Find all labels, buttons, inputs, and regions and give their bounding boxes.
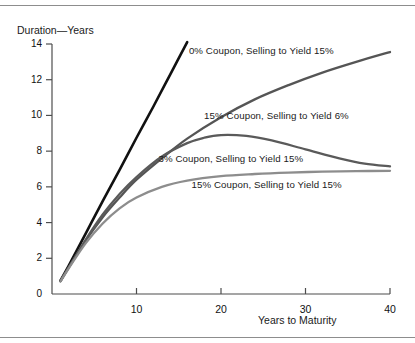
axes — [52, 44, 390, 294]
y-tick-label: 2 — [16, 253, 42, 263]
y-axis-ticks — [46, 44, 52, 258]
y-tick-label: 0 — [16, 289, 42, 299]
y-tick-label: 8 — [16, 146, 42, 156]
y-tick-label: 12 — [16, 75, 42, 85]
y-tick-label: 4 — [16, 218, 42, 228]
y-tick-label: 14 — [16, 39, 42, 49]
x-tick-label: 20 — [206, 304, 236, 315]
series-label-1: 15% Coupon, Selling to Yield 6% — [204, 111, 349, 121]
x-axis-ticks — [137, 288, 391, 294]
y-tick-label: 10 — [16, 110, 42, 120]
x-tick-label: 30 — [291, 304, 321, 315]
series-label-0: 0% Coupon, Selling to Yield 15% — [189, 46, 334, 56]
series-label-2: 3% Coupon, Selling to Yield 15% — [158, 154, 303, 164]
y-tick-label: 6 — [16, 182, 42, 192]
x-tick-label: 10 — [122, 304, 152, 315]
x-tick-label: 40 — [375, 304, 405, 315]
series-label-3: 15% Coupon, Selling to Yield 15% — [191, 180, 341, 190]
figure-container: Duration—Years Years to Maturity 0246810… — [0, 0, 415, 343]
series-line-1 — [60, 52, 390, 281]
